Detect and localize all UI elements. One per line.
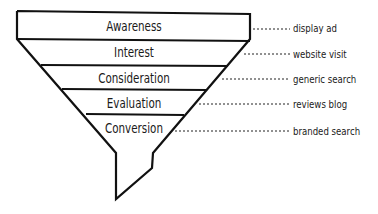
channel-display-ad: display ad bbox=[293, 22, 337, 35]
stage-awareness: Awareness bbox=[106, 18, 161, 34]
stage-interest: Interest bbox=[114, 44, 154, 60]
divider-evaluation-conversion bbox=[86, 114, 184, 115]
channel-website-visit: website visit bbox=[293, 48, 347, 61]
stage-conversion: Conversion bbox=[105, 120, 163, 136]
channel-reviews-blog: reviews blog bbox=[293, 98, 347, 111]
channel-generic-search: generic search bbox=[293, 73, 356, 86]
channel-branded-search: branded search bbox=[293, 125, 360, 138]
divider-consideration-evaluation bbox=[62, 89, 206, 90]
divider-interest-consideration bbox=[41, 65, 228, 66]
stage-evaluation: Evaluation bbox=[107, 95, 161, 111]
stage-consideration: Consideration bbox=[98, 70, 170, 86]
